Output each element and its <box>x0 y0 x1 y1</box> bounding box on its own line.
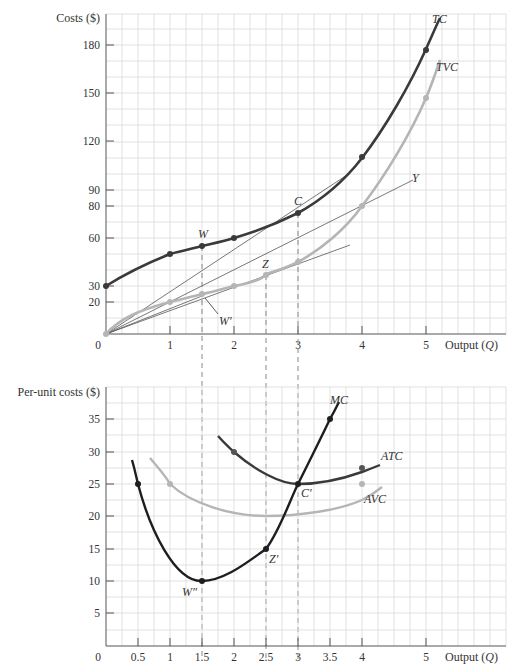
point-z-prime-label: Z′ <box>269 552 279 566</box>
top-y-axis-label: Costs ($) <box>56 11 100 25</box>
tick-label: 1 <box>167 339 173 351</box>
cost-curves-figure: 20 30 60 80 90 120 150 180 Costs ($) 0 1… <box>0 0 519 671</box>
top-chart: 20 30 60 80 90 120 150 180 Costs ($) 0 1… <box>56 11 506 660</box>
tick-label: 150 <box>83 87 101 99</box>
tick-label: 35 <box>89 413 101 425</box>
bottom-x-tick-labels: 0 0.5 1 1.5 2 2.5 3 3.5 4 5 <box>95 651 429 663</box>
top-x-tick-labels: 0 1 2 3 4 5 <box>95 339 429 351</box>
point-y-label: Y <box>412 171 420 185</box>
bottom-grid <box>106 387 506 646</box>
tick-label: 4 <box>359 339 365 351</box>
top-rays <box>106 173 413 334</box>
bottom-y-ticks <box>106 419 114 613</box>
tick-label: 5 <box>423 651 429 663</box>
top-y-tick-labels: 20 30 60 80 90 120 150 180 <box>83 39 101 308</box>
tick-label: 1 <box>167 651 173 663</box>
tick-label: 5 <box>94 607 100 619</box>
tick-label: 30 <box>89 280 101 292</box>
tick-label: 20 <box>89 510 101 522</box>
tick-label: 0 <box>95 339 101 351</box>
tick-label: 3 <box>295 651 301 663</box>
tc-curve <box>106 18 440 286</box>
tc-label: TC <box>432 12 448 26</box>
tick-label: 2 <box>231 651 237 663</box>
tick-label: 5 <box>423 339 429 351</box>
atc-label: ATC <box>380 449 404 463</box>
bottom-chart: 5 10 15 20 25 30 35 Per-unit costs ($) 0… <box>18 385 506 664</box>
w-prime-leader <box>205 298 218 314</box>
tick-label: 60 <box>89 232 101 244</box>
tick-label: 180 <box>83 39 101 51</box>
tvc-curve <box>106 60 440 334</box>
tick-label: 4 <box>359 651 365 663</box>
tick-label: 120 <box>83 135 101 147</box>
bottom-x-axis-label: Output (Q) <box>445 650 498 664</box>
tick-label: 2.5 <box>259 651 274 663</box>
tick-label: 3.5 <box>323 651 338 663</box>
point-c-label: C <box>294 194 303 208</box>
point-z-label: Z <box>262 257 269 271</box>
avc-label: AVC <box>363 492 387 506</box>
tick-label: 1.5 <box>195 651 210 663</box>
mc-label: MC <box>329 393 349 407</box>
tick-label: 0 <box>95 651 101 663</box>
point-c-prime-label: C′ <box>301 486 312 500</box>
point-w-prime-label: W′ <box>219 314 232 328</box>
bottom-y-tick-labels: 5 10 15 20 25 30 35 <box>89 413 101 619</box>
atc-curve <box>218 436 380 484</box>
top-y-ticks <box>106 45 114 302</box>
tick-label: 90 <box>89 184 101 196</box>
bottom-y-axis-label: Per-unit costs ($) <box>18 385 100 399</box>
tick-label: 15 <box>89 543 101 555</box>
tick-label: 30 <box>89 446 101 458</box>
point-w-double-prime-label: W″ <box>182 585 198 599</box>
top-x-axis-label: Output (Q) <box>445 338 498 352</box>
tick-label: 80 <box>89 200 101 212</box>
tick-label: 0.5 <box>131 651 146 663</box>
tick-label: 25 <box>89 478 101 490</box>
point-w-label: W <box>198 227 209 241</box>
tvc-label: TVC <box>436 60 459 74</box>
tick-label: 2 <box>231 339 237 351</box>
tick-label: 20 <box>89 296 101 308</box>
ray-y <box>106 180 413 334</box>
tick-label: 10 <box>89 575 101 587</box>
